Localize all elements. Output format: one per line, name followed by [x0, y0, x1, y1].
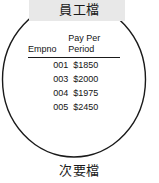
cell-pay-per-period: $2450	[68, 100, 120, 114]
cell-empno: 004	[28, 86, 68, 100]
page-title: 員工檔	[0, 0, 159, 19]
cell-pay-per-period: $2000	[68, 72, 120, 86]
column-header-empno-label: Empno	[28, 44, 68, 55]
column-header-empno: Empno	[28, 33, 68, 55]
cell-empno: 003	[28, 72, 68, 86]
table-row: 005 $2450	[28, 100, 120, 114]
cell-pay-per-period: $1850	[68, 58, 120, 72]
employee-file-figure: 員工檔 Empno Pay Per Period	[0, 0, 159, 183]
table-row: 001 $1850	[28, 58, 120, 72]
table-row: 004 $1975	[28, 86, 120, 100]
cell-empno: 005	[28, 100, 68, 114]
column-header-pay-line2: Period	[68, 44, 120, 55]
cell-empno: 001	[28, 58, 68, 72]
figure-caption: 次要檔	[0, 162, 159, 180]
employee-table-container: Empno Pay Per Period 001 $1850	[28, 33, 120, 114]
column-header-pay-per-period: Pay Per Period	[68, 33, 120, 55]
table-row: 003 $2000	[28, 72, 120, 86]
employee-table: Empno Pay Per Period 001 $1850	[28, 33, 120, 114]
cell-pay-per-period: $1975	[68, 86, 120, 100]
column-header-pay-line1: Pay Per	[68, 33, 100, 43]
table-header-row: Empno Pay Per Period	[28, 33, 120, 55]
